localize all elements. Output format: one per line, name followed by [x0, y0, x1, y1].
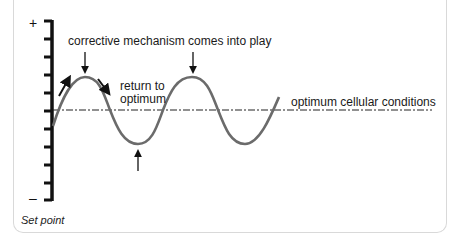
return-label-line2: optimum — [120, 93, 166, 106]
optimum-label: optimum cellular conditions — [291, 96, 436, 109]
axis-minus-label: – — [29, 191, 37, 205]
corrective-label: corrective mechanism comes into play — [68, 35, 271, 48]
set-point-label: Set point — [21, 214, 64, 226]
y-axis — [44, 20, 52, 201]
axis-plus-label: + — [29, 16, 37, 30]
